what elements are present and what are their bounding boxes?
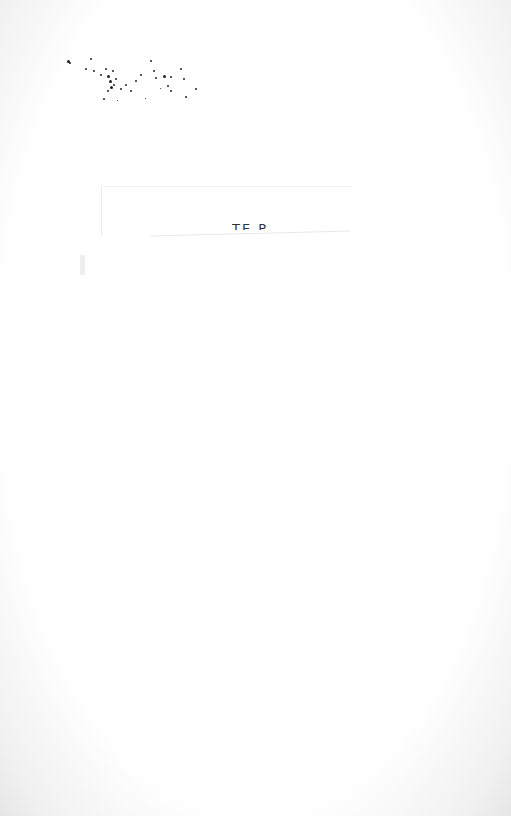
speckle-dot	[140, 74, 142, 76]
speckle-dot	[69, 62, 71, 64]
speckle-dot	[170, 76, 172, 78]
speckle-noise	[55, 40, 205, 110]
speckle-dot	[115, 78, 117, 80]
speckle-dot	[105, 68, 107, 70]
speckle-dot	[145, 98, 146, 99]
speckle-dot	[160, 88, 161, 89]
speckle-dot	[103, 98, 105, 100]
speckle-dot	[112, 70, 114, 72]
speckle-dot	[195, 88, 197, 90]
speckle-dot	[180, 68, 182, 70]
speckle-dot	[167, 85, 169, 87]
speckle-dot	[183, 78, 185, 80]
speckle-dot	[163, 75, 166, 78]
scanned-page: TE P	[0, 0, 511, 816]
speckle-dot	[135, 80, 137, 82]
speckle-dot	[107, 75, 110, 78]
speckle-dot	[120, 88, 122, 90]
speckle-dot	[125, 84, 127, 86]
speckle-dot	[110, 86, 113, 89]
speckle-dot	[100, 74, 102, 76]
speckle-dot	[107, 90, 109, 92]
speckle-dot	[117, 100, 118, 101]
speckle-dot	[93, 70, 95, 72]
faint-box-outline	[101, 186, 352, 237]
speckle-dot	[153, 70, 155, 72]
speckle-dot	[155, 77, 157, 79]
faint-mark	[80, 255, 85, 275]
speckle-dot	[170, 90, 172, 92]
speckle-dot	[85, 68, 87, 70]
speckle-dot	[185, 96, 187, 98]
speckle-dot	[90, 58, 92, 60]
speckle-dot	[113, 84, 115, 86]
speckle-dot	[130, 90, 132, 92]
speckle-dot	[150, 60, 152, 62]
speckle-dot	[109, 80, 112, 83]
